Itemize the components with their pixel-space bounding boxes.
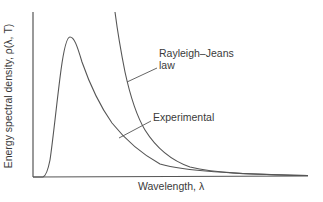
plot-area [0, 0, 323, 202]
experimental-annotation: Experimental [153, 111, 214, 123]
rj-label-line2: law [159, 59, 234, 71]
y-axis-label: Energy spectral density, ρ(λ, T) [2, 6, 14, 186]
blackbody-chart: Energy spectral density, ρ(λ, T) Wavelen… [0, 0, 323, 202]
rayleigh-jeans-curve [115, 12, 308, 176]
x-axis [33, 176, 308, 177]
rj-label-line1: Rayleigh–Jeans [159, 47, 234, 59]
x-axis-label: Wavelength, λ [138, 180, 204, 192]
rj-leader-line [127, 68, 157, 82]
rayleigh-jeans-annotation: Rayleigh–Jeans law [159, 47, 234, 71]
experimental-leader-line [119, 121, 151, 138]
